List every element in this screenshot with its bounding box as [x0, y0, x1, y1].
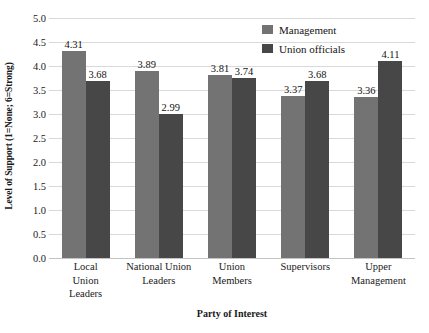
bar-chart: Level of Support (1=None; 6=Strong) 5.04…: [0, 0, 429, 333]
y-axis-tick-label: 1.5: [18, 181, 46, 192]
legend-label: Management: [279, 24, 336, 36]
y-axis-tick-label: 2.0: [18, 157, 46, 168]
y-axis-title: Level of Support (1=None; 6=Strong): [0, 0, 18, 272]
bar-value-label: 3.37: [284, 85, 302, 96]
y-axis-tick-label: 1.0: [18, 205, 46, 216]
chart-legend: ManagementUnion officials: [262, 21, 412, 59]
y-axis-tick-label: 5.0: [18, 13, 46, 24]
bar-value-label: 3.89: [138, 60, 156, 71]
legend-swatch-icon: [262, 25, 273, 34]
bar-union-officials: [378, 61, 402, 258]
bar-management: [135, 71, 159, 258]
bar-union-officials: [232, 78, 256, 258]
bar-management: [281, 96, 305, 258]
x-axis-title: Party of Interest: [49, 308, 415, 319]
y-axis-tick-label: 3.0: [18, 109, 46, 120]
bar-value-label: 2.99: [162, 103, 180, 114]
bar-group: [208, 18, 256, 258]
bar-union-officials: [305, 81, 329, 258]
y-axis-tick-labels: 5.04.54.03.53.02.52.01.51.00.50.0: [18, 0, 48, 272]
bar-value-label: 3.74: [235, 67, 253, 78]
y-axis-tick-label: 4.0: [18, 61, 46, 72]
y-axis-tick-label: 4.5: [18, 37, 46, 48]
bar-management: [62, 51, 86, 258]
legend-item[interactable]: Management: [262, 21, 412, 38]
y-axis-tick-label: 2.5: [18, 133, 46, 144]
x-axis-category-labels: LocalUnionLeadersNational UnionLeadersUn…: [49, 260, 415, 308]
bar-value-label: 3.68: [308, 70, 326, 81]
y-axis-tick-label: 0.5: [18, 229, 46, 240]
bar-group: [135, 18, 183, 258]
bar-management: [354, 97, 378, 258]
y-axis-tick-label: 3.5: [18, 85, 46, 96]
legend-item[interactable]: Union officials: [262, 40, 412, 57]
bar-value-label: 3.68: [88, 70, 106, 81]
legend-swatch-icon: [262, 44, 273, 53]
bar-management: [208, 75, 232, 258]
bar-union-officials: [86, 81, 110, 258]
bar-union-officials: [159, 114, 183, 258]
bar-value-label: 3.36: [357, 85, 375, 96]
x-axis-category-label: UpperManagement: [334, 260, 423, 287]
axis-baseline: [49, 258, 415, 259]
bar-group: [62, 18, 110, 258]
bar-value-label: 4.31: [64, 40, 82, 51]
bar-value-label: 3.81: [211, 64, 229, 75]
legend-label: Union officials: [279, 43, 345, 55]
y-axis-title-text: Level of Support (1=None; 6=Strong): [4, 62, 14, 210]
